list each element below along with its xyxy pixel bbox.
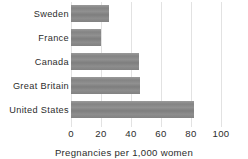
bar: [71, 101, 194, 118]
x-tick-label: 0: [68, 128, 74, 139]
bar-chart: SwedenFranceCanadaGreat BritainUnited St…: [0, 0, 248, 159]
gridline: [221, 2, 222, 127]
bar: [71, 29, 101, 46]
category-label: Great Britain: [0, 81, 69, 91]
x-tick-label: 100: [213, 128, 230, 139]
category-axis-labels: SwedenFranceCanadaGreat BritainUnited St…: [0, 0, 69, 127]
bar: [71, 53, 139, 70]
bar: [71, 77, 140, 94]
category-label: United States: [0, 105, 69, 115]
category-label: France: [0, 33, 69, 43]
x-tick-label: 80: [185, 128, 196, 139]
category-label: Canada: [0, 57, 69, 67]
category-label: Sweden: [0, 9, 69, 19]
x-tick-label: 60: [155, 128, 166, 139]
bar: [71, 5, 109, 22]
x-axis-title: Pregnancies per 1,000 women: [0, 147, 248, 158]
plot-area: [71, 0, 221, 127]
x-tick-label: 20: [95, 128, 106, 139]
x-tick-label: 40: [125, 128, 136, 139]
